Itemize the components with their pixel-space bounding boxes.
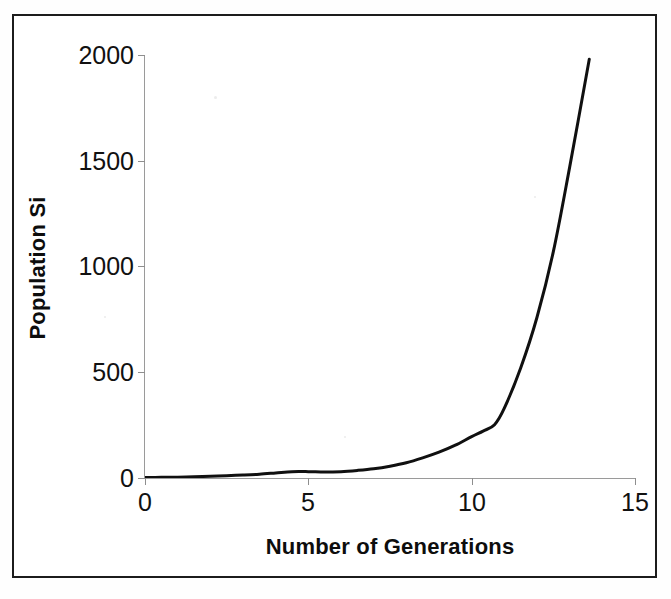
y-tick-label-500: 500 <box>92 358 134 387</box>
x-tick-label-5: 5 <box>301 488 315 517</box>
y-axis-title: Population Si <box>25 196 51 339</box>
plot-area <box>145 55 635 478</box>
y-tick-label-group: 2000 1500 1000 500 0 <box>52 0 134 599</box>
x-tick-15 <box>635 478 636 485</box>
x-axis-title: Number of Generations <box>145 534 635 560</box>
x-tick-10 <box>472 478 473 485</box>
y-tick-0 <box>138 478 145 479</box>
y-tick-label-2000: 2000 <box>78 41 134 70</box>
y-tick-2000 <box>138 55 145 56</box>
x-tick-5 <box>308 478 309 485</box>
x-tick-label-10: 10 <box>458 488 486 517</box>
y-tick-label-1000: 1000 <box>78 252 134 281</box>
x-tick-label-0: 0 <box>138 488 152 517</box>
x-tick-0 <box>145 478 146 485</box>
x-axis-line <box>145 478 636 479</box>
y-tick-1500 <box>138 161 145 162</box>
series-canvas <box>145 55 635 478</box>
y-tick-label-1500: 1500 <box>78 147 134 176</box>
figure-container: 2000 1500 1000 500 0 Population Si 0 5 1… <box>0 0 671 599</box>
x-tick-label-15: 15 <box>621 488 649 517</box>
y-tick-1000 <box>138 266 145 267</box>
y-tick-500 <box>138 372 145 373</box>
y-tick-label-0: 0 <box>120 464 134 493</box>
population-growth-curve <box>145 59 589 477</box>
